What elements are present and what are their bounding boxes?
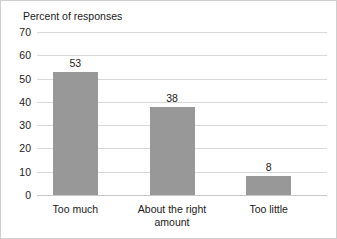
bar-value-label: 38 xyxy=(142,93,202,104)
bar-value-label: 53 xyxy=(45,58,105,69)
y-tick-label-40: 40 xyxy=(19,96,31,107)
y-tick-label-20: 20 xyxy=(19,143,31,154)
chart-title: Percent of responses xyxy=(23,10,122,22)
bar xyxy=(53,72,98,195)
gridline-0 xyxy=(37,195,327,196)
gridline-70 xyxy=(37,32,327,33)
y-tick-label-60: 60 xyxy=(19,50,31,61)
x-category-label: About the right amount xyxy=(124,203,220,228)
y-tick-label-10: 10 xyxy=(19,166,31,177)
y-tick-label-30: 30 xyxy=(19,120,31,131)
y-tick-label-50: 50 xyxy=(19,73,31,84)
y-tick-label-0: 0 xyxy=(25,190,31,201)
bar xyxy=(150,107,195,195)
y-tick-label-70: 70 xyxy=(19,27,31,38)
chart-figure: Percent of responses 706050403020100 533… xyxy=(0,0,337,239)
y-axis-tick-labels: 706050403020100 xyxy=(7,32,31,195)
x-category-label: Too little xyxy=(221,203,317,216)
plot-area: 53388 xyxy=(37,32,327,195)
bar-value-label: 8 xyxy=(239,162,299,173)
x-category-label: Too much xyxy=(27,203,123,216)
bar xyxy=(246,176,291,195)
